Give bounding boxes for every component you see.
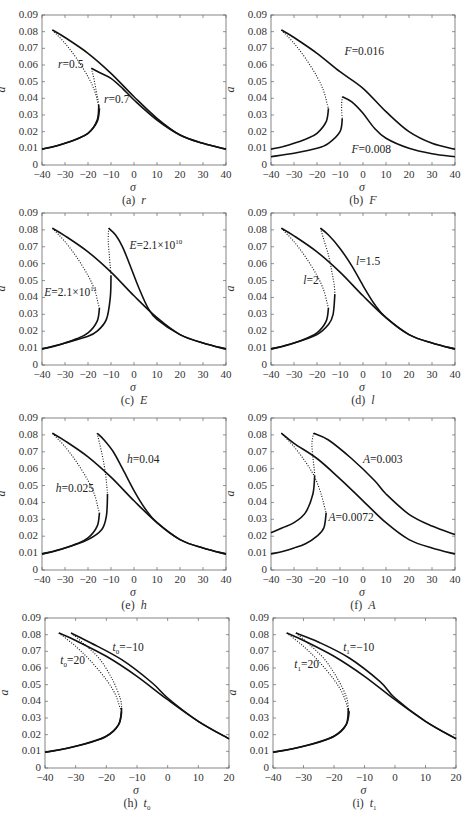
x-tick-label: 20 — [443, 771, 469, 783]
x-tick-label: −30 — [291, 771, 317, 783]
stable-branch-t1=-10 — [273, 708, 348, 752]
y-tick-label: 0.08 — [235, 628, 269, 640]
y-tick-label: 0.09 — [235, 611, 269, 623]
stable-branch-t1=20 — [273, 711, 349, 752]
x-tick-label: −20 — [321, 771, 347, 783]
y-tick-label: 0.02 — [235, 728, 269, 740]
y-tick-label: 0.03 — [235, 711, 269, 723]
series-label: t1=−10 — [343, 641, 374, 656]
panel-caption: (i) t1 — [335, 796, 395, 812]
y-tick-label: 0 — [235, 761, 269, 773]
x-tick-label: −10 — [352, 771, 378, 783]
y-tick-label: 0.05 — [235, 678, 269, 690]
series-label: t1=20 — [294, 658, 319, 673]
y-tick-label: 0.04 — [235, 694, 269, 706]
y-tick-label: 0.06 — [235, 661, 269, 673]
x-tick-label: 10 — [413, 771, 439, 783]
x-tick-label: 0 — [382, 771, 408, 783]
y-tick-label: 0.01 — [235, 744, 269, 756]
y-axis-label: a — [225, 690, 240, 696]
y-tick-label: 0.07 — [235, 644, 269, 656]
